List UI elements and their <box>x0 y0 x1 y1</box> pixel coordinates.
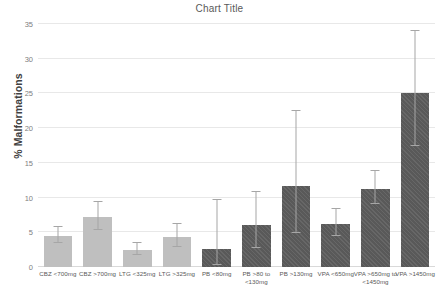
error-cap-lower <box>172 246 181 247</box>
error-bar <box>97 202 98 230</box>
y-tick-label-0: 0 <box>3 263 33 272</box>
error-cap-lower <box>133 254 142 255</box>
error-cap-lower <box>53 242 62 243</box>
bar-group[interactable] <box>276 24 316 267</box>
error-cap-upper <box>411 30 420 31</box>
error-cap-lower <box>331 235 340 236</box>
bar-group[interactable] <box>38 24 78 267</box>
error-cap-upper <box>212 199 221 200</box>
x-tick-label: VPA >1450mg <box>393 270 437 278</box>
bars-layer <box>38 24 435 267</box>
error-bar <box>57 227 58 244</box>
x-tick-label: LTG >325mg <box>155 270 199 278</box>
error-cap-lower <box>292 232 301 233</box>
y-tick-label-5: 5 <box>3 228 33 237</box>
y-axis-tick-labels: 05101520253035 <box>0 24 38 267</box>
error-bar <box>176 224 177 247</box>
bar-group[interactable] <box>197 24 237 267</box>
error-cap-lower <box>371 203 380 204</box>
y-tick-label-25: 25 <box>3 89 33 98</box>
error-bar <box>375 171 376 204</box>
x-tick-label: PB >80 to <130mg <box>235 270 279 287</box>
x-tick-label: VPA >650mg to <1450mg <box>354 270 398 287</box>
x-tick-label: VPA <650mg <box>314 270 358 278</box>
y-tick-label-20: 20 <box>3 124 33 133</box>
error-cap-upper <box>172 223 181 224</box>
error-bar <box>256 192 257 248</box>
bar-group[interactable] <box>78 24 118 267</box>
y-tick-label-10: 10 <box>3 193 33 202</box>
bar-group[interactable] <box>316 24 356 267</box>
y-tick-label-35: 35 <box>3 20 33 29</box>
bar-group[interactable] <box>117 24 157 267</box>
error-bar <box>335 209 336 237</box>
chart-title: Chart Title <box>0 3 439 14</box>
error-bar <box>296 111 297 233</box>
x-tick-label: LTG <325mg <box>115 270 159 278</box>
error-cap-upper <box>53 226 62 227</box>
bar-group[interactable] <box>395 24 435 267</box>
error-cap-lower <box>93 229 102 230</box>
x-axis-tick-labels: CBZ <700mgCBZ >700mgLTG <325mgLTG >325mg… <box>38 270 435 304</box>
error-bar <box>216 200 217 265</box>
error-cap-upper <box>371 170 380 171</box>
chart-container: Chart Title % Malformations 051015202530… <box>0 0 439 304</box>
error-cap-lower <box>212 264 221 265</box>
x-tick-label: PB >130mg <box>274 270 318 278</box>
error-cap-upper <box>331 208 340 209</box>
error-cap-lower <box>411 145 420 146</box>
error-cap-lower <box>252 247 261 248</box>
bar-group[interactable] <box>356 24 396 267</box>
error-cap-upper <box>292 110 301 111</box>
x-tick-label: PB <80mg <box>195 270 239 278</box>
y-tick-label-30: 30 <box>3 54 33 63</box>
error-cap-upper <box>133 242 142 243</box>
bar-group[interactable] <box>237 24 277 267</box>
y-tick-label-15: 15 <box>3 158 33 167</box>
error-cap-upper <box>93 201 102 202</box>
error-bar <box>415 31 416 146</box>
error-cap-upper <box>252 191 261 192</box>
x-tick-label: CBZ >700mg <box>76 270 120 278</box>
bar-group[interactable] <box>157 24 197 267</box>
x-tick-label: CBZ <700mg <box>36 270 80 278</box>
